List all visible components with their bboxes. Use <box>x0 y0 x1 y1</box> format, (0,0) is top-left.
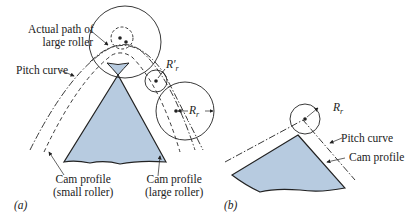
label-cam-small-line1: Cam profile <box>53 173 113 186</box>
label-cam-profile-b: Cam profile <box>349 151 404 164</box>
label-cam-small-line2: (small roller) <box>53 186 113 199</box>
label-actual-path: Actual path of large roller <box>28 23 94 49</box>
r-b-subscript: r <box>340 107 343 116</box>
label-r-prime: R′r <box>166 58 179 75</box>
label-cam-large-roller: Cam profile (large roller) <box>145 173 203 199</box>
r-prime-subscript: r <box>176 64 179 73</box>
label-pitch-curve-a: Pitch curve <box>16 64 68 77</box>
label-actual-path-line2: large roller <box>28 36 94 49</box>
cam-cusp-top <box>107 63 129 75</box>
cam-profile-b <box>232 135 345 192</box>
label-actual-path-line1: Actual path of <box>28 23 94 36</box>
r-subscript: r <box>196 110 199 119</box>
label-cam-large-line1: Cam profile <box>145 173 203 186</box>
r-prime-symbol: R′ <box>166 58 176 70</box>
r-b-symbol: R <box>333 101 340 113</box>
r-symbol: R <box>189 104 196 116</box>
panel-a-tag: (a) <box>14 199 27 212</box>
label-cam-large-line2: (large roller) <box>145 186 203 199</box>
cam-roller-diagram: Actual path of large roller Pitch curve … <box>0 0 414 220</box>
panel-b-tag: (b) <box>224 199 237 212</box>
label-r: Rr <box>188 104 200 121</box>
cam-profile-large-roller <box>64 75 166 164</box>
label-cam-small-roller: Cam profile (small roller) <box>53 173 113 199</box>
label-pitch-curve-b: Pitch curve <box>341 132 393 145</box>
label-r-b: Rr <box>333 101 343 118</box>
